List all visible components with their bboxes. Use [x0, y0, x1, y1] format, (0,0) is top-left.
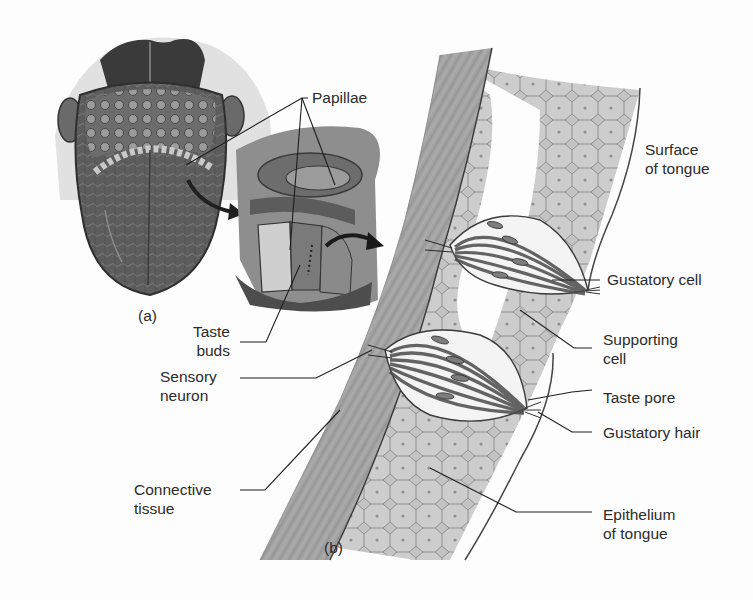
label-sensory-neuron: Sensory neuron: [160, 367, 217, 405]
label-taste-buds: Taste buds: [170, 322, 230, 360]
label-taste-pore: Taste pore: [603, 388, 675, 407]
label-supporting-cell: Supporting cell: [603, 330, 678, 368]
label-surface-of-tongue: Surface of tongue: [645, 140, 710, 178]
taste-anatomy-figure: Papillae Surface of tongue Gustatory cel…: [0, 0, 753, 600]
label-gustatory-cell: Gustatory cell: [607, 270, 702, 289]
panel-label-b: (b): [324, 538, 343, 557]
label-papillae: Papillae: [312, 88, 367, 107]
label-connective-tissue: Connective tissue: [134, 480, 212, 518]
panel-label-a: (a): [138, 306, 157, 325]
label-epithelium-of-tongue: Epithelium of tongue: [603, 505, 675, 543]
papilla-cross-section: [235, 126, 384, 311]
label-gustatory-hair: Gustatory hair: [603, 423, 700, 442]
